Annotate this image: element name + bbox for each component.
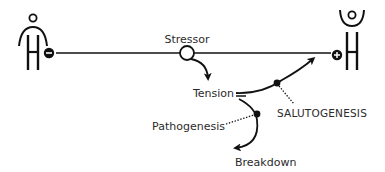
salutogenesis-dotted-leader (279, 86, 294, 104)
tension-to-salutogenesis-arrow (236, 59, 313, 93)
tension-label: Tension (192, 87, 234, 100)
plus-badge-icon (332, 50, 342, 60)
breakdown-label: Breakdown (235, 156, 296, 169)
person-minus-icon (19, 14, 47, 70)
minus-badge-icon (44, 48, 54, 58)
tension-to-breakdown-arrow (236, 99, 257, 148)
pathogenesis-label: Pathogenesis (152, 120, 225, 133)
salutogenesis-label: SALUTOGENESIS (277, 107, 367, 119)
stressor-label: Stressor (164, 33, 210, 46)
salutogenesis-diagram: Stressor Tension SALUTOGENESIS Pathogene… (0, 0, 385, 172)
pathogenesis-node (254, 111, 261, 118)
salutogenesis-node (274, 80, 281, 87)
stressor-to-tension-arrow (191, 59, 208, 78)
person-plus-icon (340, 10, 364, 70)
pathogenesis-dotted-leader (226, 115, 254, 124)
stressor-node (180, 46, 194, 60)
